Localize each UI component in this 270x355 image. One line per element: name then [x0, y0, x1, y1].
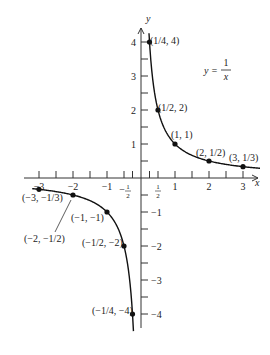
- y-tick-label: 4: [131, 37, 136, 48]
- point-label: (1/2, 2): [158, 102, 187, 114]
- y-tick-label: 2: [131, 105, 136, 116]
- svg-text:1: 1: [126, 183, 130, 191]
- x-tick-label: 1: [173, 181, 178, 192]
- point-label: (3, 1/3): [229, 152, 258, 164]
- y-tick-label: −2: [151, 241, 162, 252]
- x-axis-label: x: [254, 177, 260, 188]
- y-tick-label: 1: [131, 139, 136, 150]
- fraction-label: −12: [119, 183, 131, 200]
- y-axis-label: y: [145, 13, 151, 24]
- y-tick-label: −4: [151, 309, 162, 320]
- equation-numerator: 1: [224, 57, 229, 68]
- data-point: [206, 158, 211, 163]
- point-label: (−3, −1/3): [22, 192, 63, 204]
- y-tick-label: −1: [151, 207, 162, 218]
- svg-text:−: −: [119, 184, 125, 195]
- data-point: [104, 209, 109, 214]
- point-label: (1/4, 4): [150, 35, 179, 47]
- point-label: (−2, −1/2): [24, 233, 65, 245]
- y-tick-label: 3: [131, 71, 136, 82]
- svg-text:2: 2: [126, 192, 130, 200]
- x-tick-label: −2: [68, 181, 79, 192]
- x-tick-label: −1: [102, 181, 113, 192]
- x-tick-label: 2: [207, 181, 212, 192]
- equation-lhs: y =: [203, 65, 218, 76]
- svg-text:2: 2: [156, 192, 160, 200]
- equation-label: y = 1 x: [203, 57, 231, 82]
- point-label: (2, 1/2): [196, 147, 225, 159]
- point-label: (−1/2, −2): [82, 237, 123, 249]
- x-tick-label: 3: [241, 181, 246, 192]
- data-point: [172, 141, 177, 146]
- point-label: (−1/4, −4): [92, 305, 133, 317]
- pointer-line: [55, 200, 71, 232]
- data-point: [240, 164, 245, 169]
- y-tick-label: −3: [151, 275, 162, 286]
- point-label: (−1, −1): [71, 212, 104, 224]
- point-label: (1, 1): [171, 129, 193, 141]
- svg-text:1: 1: [156, 183, 160, 191]
- fraction-label: 12: [155, 183, 161, 200]
- data-point: [70, 192, 75, 197]
- equation-denominator: x: [223, 71, 229, 82]
- reciprocal-function-chart: −3−2−1−12121234321−1−2−3−4 (1/4, 4)(1/2,…: [0, 0, 270, 355]
